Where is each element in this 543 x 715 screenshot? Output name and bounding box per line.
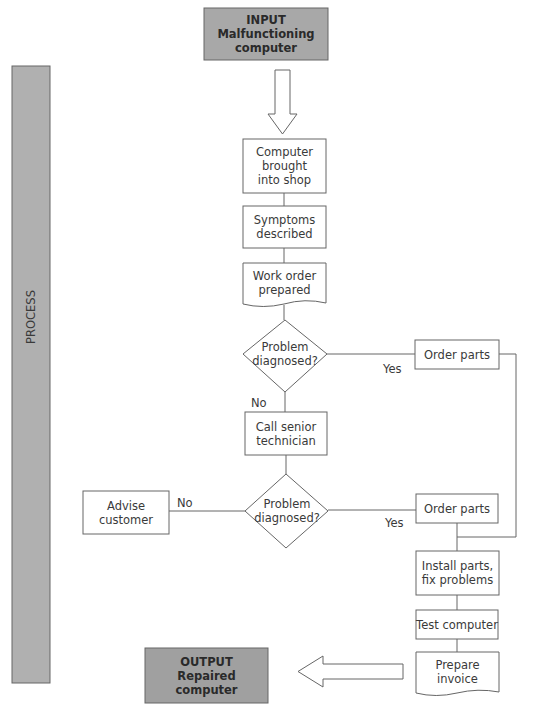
input-label: INPUT Malfunctioning computer [204,8,328,60]
edge-d2-yes: Yes [385,516,404,530]
input-subtitle: Malfunctioning computer [204,27,328,55]
input-title: INPUT [246,13,286,27]
step-test: Test computer [416,610,498,639]
step-install: Install parts, fix problems [416,551,499,595]
step-work-order: Work order prepared [243,263,326,303]
decision-2-text: Problem diagnosed? [252,494,322,528]
step-call-senior: Call senior technician [245,412,327,455]
down-arrow-icon [268,70,297,134]
step-order-parts-1: Order parts [415,340,499,369]
decision-1-text: Problem diagnosed? [250,337,320,371]
output-label: OUTPUT Repaired computer [145,648,268,703]
edge-d2-no: No [177,496,193,510]
edge-d1-yes: Yes [383,362,402,376]
process-label: PROCESS [24,272,38,362]
step-order-parts-2: Order parts [416,494,498,523]
step-brought-in: Computer brought into shop [243,139,326,193]
left-arrow-icon [298,656,403,687]
step-invoice: Prepare invoice [416,652,499,692]
process-bar [12,66,50,683]
step-symptoms: Symptoms described [243,206,326,248]
output-subtitle: Repaired computer [145,669,268,697]
step-advise: Advise customer [83,491,169,534]
edge-d1-no: No [251,396,267,410]
output-title: OUTPUT [180,655,233,669]
